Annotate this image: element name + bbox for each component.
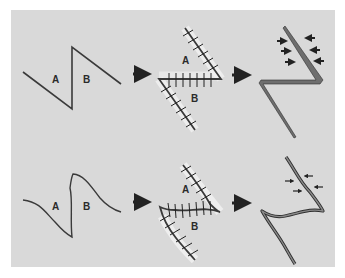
flap-label-b: B (191, 93, 198, 104)
healed-scar-curved (262, 157, 323, 264)
row-curved: A B (23, 157, 323, 264)
healed-scar-straight (259, 26, 324, 138)
flap-label-a: A (52, 74, 59, 85)
flap-label-b: B (191, 221, 198, 232)
flap-label-a: A (182, 184, 189, 195)
flap-label-a: A (182, 55, 189, 66)
flap-label-b: B (83, 74, 90, 85)
transposed-flaps-straight: A B (159, 28, 221, 130)
row-straight: A B (23, 26, 324, 138)
z-incision-straight: A B (23, 47, 121, 109)
z-plasty-diagram: A B (0, 0, 345, 278)
transposed-flaps-curved: A B (160, 165, 220, 260)
flap-label-a: A (52, 201, 59, 212)
flap-label-b: B (83, 201, 90, 212)
z-incision-curved: A B (23, 174, 121, 237)
